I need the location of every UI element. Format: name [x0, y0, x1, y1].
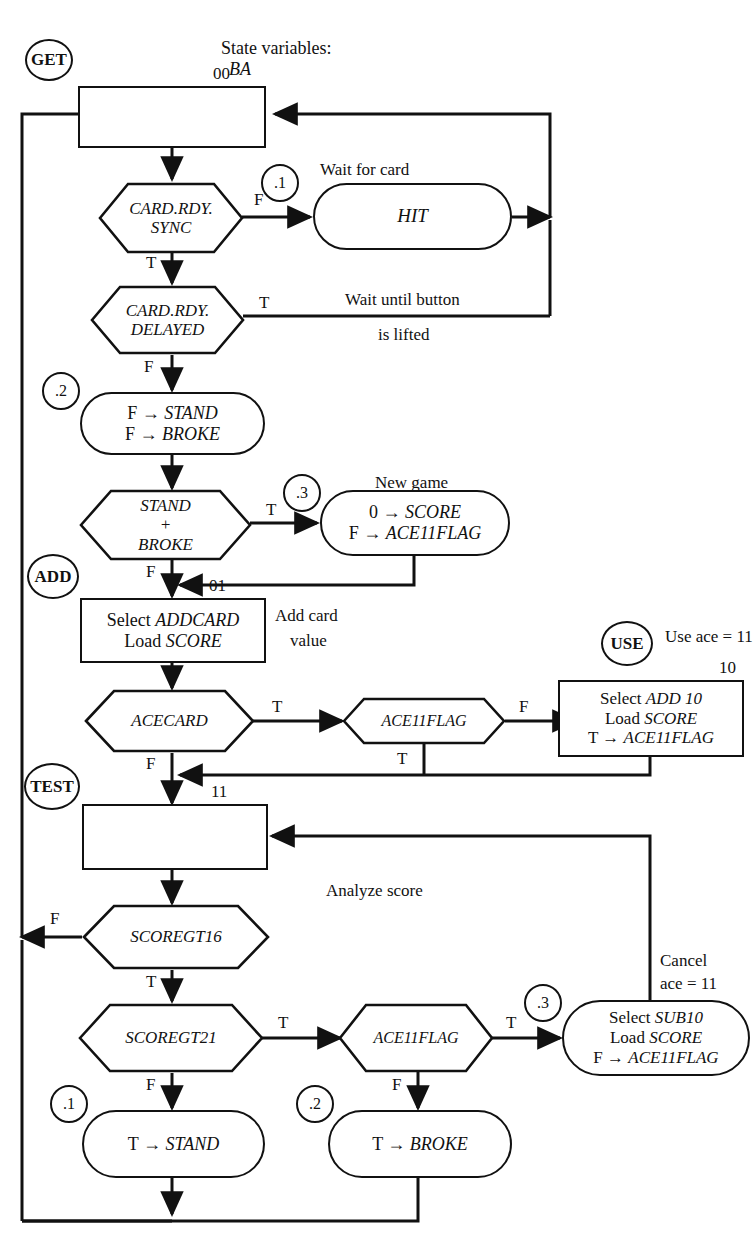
substate-2a-label: .2	[55, 382, 67, 400]
annotation-use-ace: Use ace = 11	[665, 627, 753, 647]
use-box-line1: Select ADD 10	[600, 689, 702, 709]
decision-card-rdy-sync[interactable]: CARD.RDY. SYNC	[98, 181, 244, 255]
annotation-cancel-line1: Cancel	[660, 951, 707, 971]
branch-label-standbroke-t: T	[266, 500, 276, 520]
state-code-11: 11	[211, 782, 227, 802]
decision-ace11flag-add-shape	[342, 696, 506, 746]
substate-1b-label: .1	[63, 1095, 75, 1113]
clear-flags-line1: F → STAND	[127, 403, 218, 424]
diagram-title-text: State variables:	[221, 38, 331, 58]
branch-label-ace11test-f: F	[392, 1075, 401, 1095]
substate-2b[interactable]: .2	[296, 1085, 334, 1123]
output-oval-clear-flags[interactable]: F → STAND F → BROKE	[80, 392, 265, 455]
state-name-test[interactable]: TEST	[24, 763, 80, 810]
decision-card-rdy-delayed-shape	[90, 284, 245, 356]
annotation-cancel-line2: ace = 11	[660, 974, 717, 994]
set-broke-text: T → BROKE	[372, 1134, 468, 1155]
state-name-test-label: TEST	[30, 777, 73, 797]
set-stand-text: T → STAND	[128, 1134, 219, 1155]
clear-flags-line2: F → BROKE	[125, 424, 220, 445]
state-box-get[interactable]	[78, 86, 266, 148]
annotation-wait-button-line1: Wait until button	[345, 290, 460, 310]
decision-ace11flag-test-shape	[338, 1002, 494, 1074]
state-name-use[interactable]: USE	[601, 621, 653, 666]
branch-label-acecard-f: F	[146, 754, 155, 774]
state-name-get[interactable]: GET	[25, 39, 73, 81]
decision-scoregt16-shape	[82, 903, 270, 971]
state-name-add-label: ADD	[35, 567, 72, 587]
state-name-add[interactable]: ADD	[27, 554, 79, 599]
annotation-new-game: New game	[375, 473, 448, 493]
branch-label-delayed-f: F	[144, 357, 153, 377]
state-box-use[interactable]: Select ADD 10 Load SCORE T → ACE11FLAG	[558, 680, 744, 757]
decision-stand-plus-broke-shape	[79, 488, 252, 562]
output-oval-set-stand[interactable]: T → STAND	[82, 1110, 265, 1178]
use-box-line3: T → ACE11FLAG	[588, 728, 714, 748]
state-code-01: 01	[209, 576, 226, 596]
decision-card-rdy-sync-shape	[98, 181, 244, 255]
sub10-line2: Load SCORE	[610, 1028, 702, 1048]
decision-stand-plus-broke[interactable]: STAND + BROKE	[79, 488, 252, 562]
use-box-line2: Load SCORE	[605, 709, 697, 729]
branch-label-gt16-f: F	[50, 909, 59, 929]
substate-2a[interactable]: .2	[42, 372, 80, 410]
decision-acecard-shape	[84, 688, 255, 754]
annotation-add-card-line2: value	[290, 631, 327, 651]
new-game-line2: F → ACE11FLAG	[349, 523, 482, 544]
substate-3b[interactable]: .3	[524, 984, 562, 1022]
output-oval-new-game[interactable]: 0 → SCORE F → ACE11FLAG	[320, 490, 510, 556]
state-box-add[interactable]: Select ADDCARD Load SCORE	[80, 598, 266, 663]
branch-label-gt21-f: F	[146, 1075, 155, 1095]
output-oval-set-broke[interactable]: T → BROKE	[328, 1110, 512, 1178]
branch-label-acecard-t: T	[272, 697, 282, 717]
branch-label-gt21-t: T	[278, 1013, 288, 1033]
state-code-00: 00	[213, 64, 230, 84]
flowchart-canvas: State variables: BA GET ADD TEST USE .1 …	[0, 0, 754, 1241]
sub10-line1: Select SUB10	[609, 1008, 703, 1028]
annotation-analyze-score: Analyze score	[326, 881, 423, 901]
decision-scoregt21[interactable]: SCOREGT21	[78, 1002, 264, 1074]
add-box-line2: Load SCORE	[124, 631, 221, 652]
new-game-line1: 0 → SCORE	[369, 502, 461, 523]
decision-ace11flag-add[interactable]: ACE11FLAG	[342, 696, 506, 746]
branch-label-sync-f: F	[254, 190, 263, 210]
sub10-line3: F → ACE11FLAG	[593, 1048, 718, 1068]
substate-1b[interactable]: .1	[50, 1085, 88, 1123]
substate-1a-label: .1	[274, 174, 286, 192]
substate-3b-label: .3	[537, 994, 549, 1012]
decision-acecard[interactable]: ACECARD	[84, 688, 255, 754]
annotation-wait-for-card: Wait for card	[320, 160, 409, 180]
branch-label-ace11test-t: T	[506, 1013, 516, 1033]
substate-3a-label: .3	[296, 484, 308, 502]
substate-3a[interactable]: .3	[283, 474, 321, 512]
diagram-title-variable: BA	[229, 59, 251, 79]
decision-scoregt16[interactable]: SCOREGT16	[82, 903, 270, 971]
state-box-test[interactable]	[82, 804, 268, 870]
decision-ace11flag-test[interactable]: ACE11FLAG	[338, 1002, 494, 1074]
substate-1a[interactable]: .1	[261, 164, 299, 202]
branch-label-delayed-t: T	[259, 293, 269, 313]
annotation-add-card-line1: Add card	[275, 606, 338, 626]
state-code-10: 10	[719, 658, 736, 678]
decision-card-rdy-delayed[interactable]: CARD.RDY. DELAYED	[90, 284, 245, 356]
decision-scoregt21-shape	[78, 1002, 264, 1074]
branch-label-gt16-t: T	[146, 972, 156, 992]
add-box-line1: Select ADDCARD	[107, 610, 239, 631]
branch-label-ace11add-f: F	[519, 697, 528, 717]
substate-2b-label: .2	[309, 1095, 321, 1113]
output-oval-hit[interactable]: HIT	[313, 183, 512, 250]
branch-label-standbroke-f: F	[146, 562, 155, 582]
hit-label: HIT	[397, 205, 428, 227]
state-name-use-label: USE	[610, 634, 643, 654]
annotation-wait-button-line2: is lifted	[378, 325, 429, 345]
output-oval-sub10[interactable]: Select SUB10 Load SCORE F → ACE11FLAG	[562, 1000, 750, 1076]
branch-label-sync-t: T	[146, 253, 156, 273]
branch-label-ace11add-t: T	[397, 749, 407, 769]
state-name-get-label: GET	[31, 50, 67, 70]
